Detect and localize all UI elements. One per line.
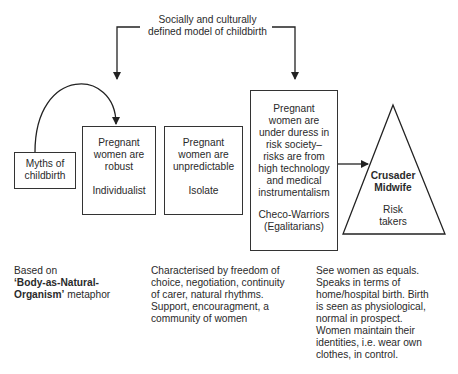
note-middle: Characterised by freedom of choice, nego… bbox=[151, 265, 311, 325]
unpredictable-box: Pregnant women are unpredictable Isolate bbox=[164, 126, 243, 215]
note-right: See women as equals. Speaks in terms of … bbox=[316, 265, 456, 361]
model-title: Socially and culturally defined model of… bbox=[120, 14, 295, 38]
robust-box: Pregnant women are robust Individualist bbox=[82, 126, 156, 215]
individualist-label: Individualist bbox=[83, 185, 155, 197]
myths-box: Myths of childbirth bbox=[14, 152, 76, 189]
checo-warriors-label: Checo-Warriors bbox=[251, 209, 337, 221]
crusader-midwife-title: Crusader bbox=[358, 170, 428, 182]
duress-box: Pregnant women are under duress in risk … bbox=[250, 90, 338, 251]
isolate-label: Isolate bbox=[165, 185, 242, 197]
note-left: Based on ‘Body-as-Natural- Organism’ met… bbox=[14, 265, 134, 301]
triangle-text: Crusader Midwife Risk takers bbox=[358, 170, 428, 228]
